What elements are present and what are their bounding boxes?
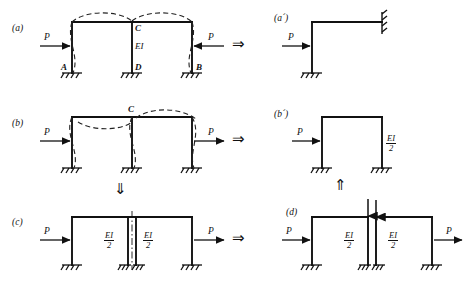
- panel-tag-c: (c): [12, 218, 23, 228]
- stiffness-den-d-right: 2: [388, 241, 398, 250]
- panel-tag-b-prime: (b´): [274, 110, 288, 120]
- panel-b-prime-frame: [322, 117, 382, 168]
- stiffness-label-b-prime: EI 2: [386, 134, 396, 153]
- panel-tag-a-prime: (a´): [274, 14, 288, 24]
- stiffness-den-b-prime: 2: [386, 144, 396, 153]
- stiffness-label-a: EI: [135, 42, 144, 51]
- panel-tag-b: (b): [12, 119, 23, 129]
- stiffness-den-d-left: 2: [344, 241, 354, 250]
- panel-d-frame: [312, 217, 432, 265]
- stiffness-den-c-left: 2: [104, 241, 114, 250]
- implication-arrow-a: ⇒: [232, 37, 245, 52]
- stiffness-den-c-right: 2: [143, 241, 153, 250]
- load-label-d-right: P: [446, 227, 452, 237]
- stiffness-label-d-left: EI 2: [344, 231, 354, 250]
- load-label-b-left: P: [44, 128, 50, 138]
- down-arrow-b-to-c: ⇓: [114, 182, 127, 197]
- load-label-b-prime: P: [297, 128, 303, 138]
- implication-arrow-c: ⇒: [232, 231, 245, 246]
- load-label-a-left: P: [44, 33, 50, 43]
- stiffness-label-c-right: EI 2: [143, 231, 153, 250]
- panel-b-prime-supports: [311, 168, 392, 173]
- node-label-c-b: C: [128, 105, 134, 114]
- load-label-a-right: P: [208, 33, 214, 43]
- load-label-b-right: P: [208, 128, 214, 138]
- node-label-d-a: D: [135, 63, 142, 72]
- panel-a-prime-frame: [312, 22, 382, 73]
- load-label-a-prime: P: [288, 33, 294, 43]
- node-label-c-a: C: [135, 24, 141, 33]
- load-label-d-left: P: [286, 227, 292, 237]
- node-label-a-a: A: [61, 63, 67, 72]
- up-arrow-d-to-b-prime: ⇑: [334, 178, 347, 193]
- panel-c-supports: [61, 265, 202, 270]
- figure-canvas: (a) (a´) (b) (b´) (c) (d) P P C D A B EI…: [0, 0, 476, 292]
- implication-arrow-b: ⇒: [232, 132, 245, 147]
- stiffness-label-d-right: EI 2: [388, 231, 398, 250]
- panel-tag-a: (a): [12, 24, 23, 34]
- panel-d-supports: [301, 265, 442, 270]
- panel-tag-d: (d): [286, 208, 297, 218]
- node-label-b-a: B: [196, 63, 202, 72]
- stiffness-label-c-left: EI 2: [104, 231, 114, 250]
- panel-d-shear-arrows: [368, 199, 376, 217]
- panel-a-frame: [72, 22, 192, 73]
- load-label-c-left: P: [44, 227, 50, 237]
- load-label-c-right: P: [208, 227, 214, 237]
